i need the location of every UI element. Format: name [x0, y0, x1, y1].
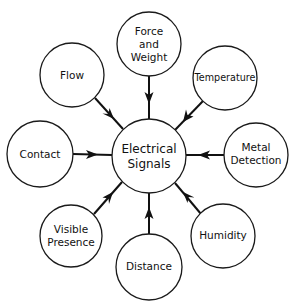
node-label: Metal — [242, 141, 271, 153]
node-force-and-weight: Force and Weight — [117, 12, 181, 76]
node-label: Visible — [54, 223, 88, 235]
node-flow: Flow — [40, 43, 104, 107]
node-label: Force — [135, 25, 163, 37]
node-electrical-signals: Electrical Signals — [112, 119, 186, 193]
connector-contact-to-center — [73, 150, 112, 159]
node-label: Electrical — [121, 142, 176, 156]
node-label: Humidity — [199, 229, 247, 241]
node-contact: Contact — [7, 121, 73, 187]
node-visible-presence: Visible Presence — [40, 205, 102, 267]
connector-metal-detection-to-center — [186, 151, 224, 160]
node-label: Presence — [47, 236, 95, 248]
connector-visible-presence-to-center — [94, 182, 122, 214]
node-temperature: Temperature — [193, 46, 257, 110]
node-label: Flow — [60, 69, 84, 81]
connector-temperature-to-center — [175, 101, 203, 130]
node-label: Temperature — [194, 72, 256, 83]
connector-distance-to-center — [145, 193, 154, 234]
node-distance: Distance — [116, 234, 182, 300]
node-label: Distance — [126, 260, 172, 272]
node-label: Detection — [230, 154, 281, 166]
connector-flow-to-center — [95, 98, 123, 129]
connector-humidity-to-center — [175, 183, 201, 214]
node-humidity: Humidity — [191, 204, 255, 268]
sensor-signal-diagram: Electrical Signals Force and Weight Temp… — [0, 0, 297, 308]
node-metal-detection: Metal Detection — [224, 123, 288, 187]
node-label: Signals — [127, 157, 170, 171]
node-label: and — [139, 38, 159, 50]
arrowhead-icon — [183, 192, 195, 203]
connector-force-to-center — [145, 76, 154, 119]
node-label: Weight — [131, 51, 168, 63]
node-label: Contact — [20, 148, 61, 160]
